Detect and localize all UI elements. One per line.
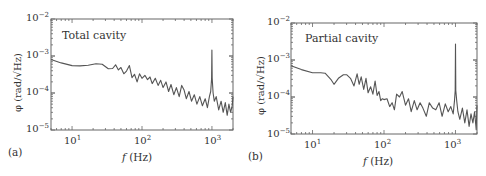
y-axis-label: φ (rad/√Hz): [255, 56, 266, 115]
chart-panel-b: Partial cavity φ (rad/√Hz) 10−2 10−3 10−…: [243, 0, 486, 176]
spectrum-line: [51, 50, 233, 115]
y-tick-label: 10−4: [267, 89, 290, 101]
y-tick-label: 10−5: [26, 122, 49, 134]
x-tick-label: 102: [134, 134, 151, 146]
y-tick-label: 10−3: [26, 48, 49, 60]
x-tick-label: 101: [304, 138, 321, 150]
chart-panel-a: Total cavity φ (rad/√Hz) 10−2 10−3 10−4 …: [0, 0, 243, 176]
y-axis-label: φ (rad/√Hz): [12, 53, 23, 112]
y-tick-label: 10−2: [267, 15, 290, 27]
x-tick-label: 103: [444, 138, 461, 150]
y-tick-label: 10−4: [26, 85, 49, 97]
x-tick-label: 101: [64, 134, 81, 146]
y-tick-label: 10−5: [267, 127, 290, 139]
panel-title: Total cavity: [62, 29, 126, 42]
spectrum-line: [291, 44, 477, 130]
panel-title: Partial cavity: [305, 32, 378, 45]
x-tick-label: 103: [204, 134, 221, 146]
x-axis-label: f (Hz): [363, 155, 393, 167]
panel-tag: (b): [248, 150, 263, 162]
x-tick-label: 102: [374, 138, 391, 150]
y-tick-label: 10−3: [267, 52, 290, 64]
panel-tag: (a): [8, 146, 22, 158]
y-tick-label: 10−2: [26, 11, 49, 23]
x-axis-label: f (Hz): [122, 151, 152, 163]
